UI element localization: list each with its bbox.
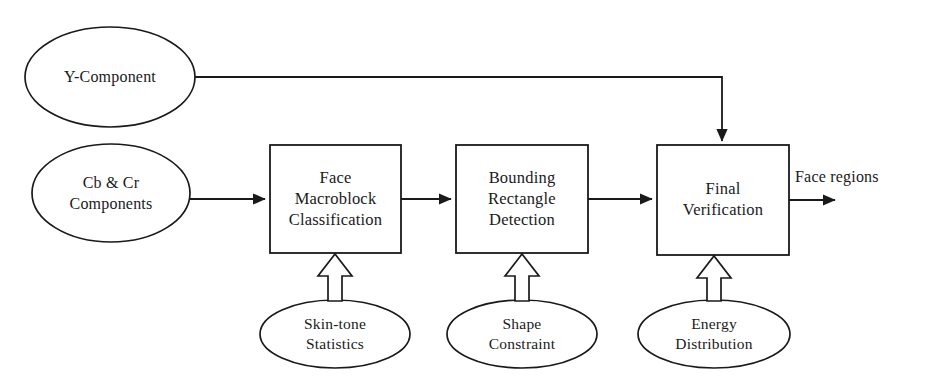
block-arrow-shape-constraint: [505, 254, 539, 301]
node-final-verification-shape: [657, 145, 789, 255]
node-skin-tone-statistics-shape: [260, 300, 410, 368]
block-arrow-energy-distribution: [697, 256, 731, 301]
diagram-canvas: Y-Component Cb & Cr Components Face Macr…: [0, 0, 925, 388]
node-bounding-rectangle-detection-shape: [456, 145, 588, 253]
node-y-component-shape: [25, 27, 195, 127]
node-cbcr-components-shape: [32, 144, 190, 242]
node-shape-constraint-shape: [447, 300, 597, 368]
node-energy-distribution-shape: [638, 300, 790, 368]
block-arrow-skin-tone-statistics: [318, 254, 352, 301]
node-face-macroblock-classification-shape: [270, 145, 401, 253]
diagram-graphics: [0, 0, 925, 388]
edge-y-component-to-final-verification: [195, 77, 722, 141]
